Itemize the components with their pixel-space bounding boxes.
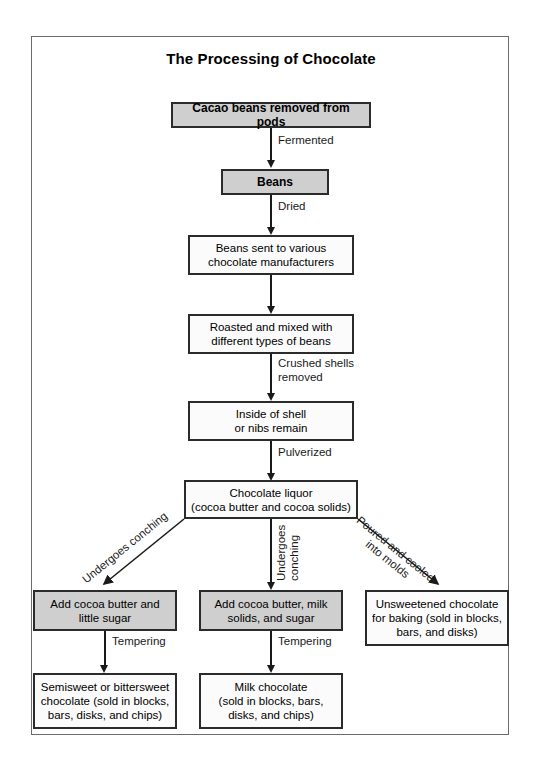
page-title: The Processing of Chocolate bbox=[32, 50, 510, 67]
edge-label-tempering-left: Tempering bbox=[112, 635, 166, 649]
node-chocolate-liquor: Chocolate liquor (cocoa butter and cocoa… bbox=[184, 480, 358, 519]
diagram-frame: The Processing of Chocolate Cacao beans … bbox=[31, 36, 509, 735]
node-semisweet-chocolate-label: Semisweet or bittersweet chocolate (sold… bbox=[39, 680, 171, 722]
arrowhead-roasted-to-shell bbox=[267, 393, 275, 401]
edge-label-dried: Dried bbox=[278, 200, 305, 214]
connector-liquor-to-milk-mix bbox=[270, 519, 272, 584]
edge-label-fermented: Fermented bbox=[278, 134, 334, 148]
node-semisweet-chocolate: Semisweet or bittersweet chocolate (sold… bbox=[33, 673, 177, 729]
node-manufacturers: Beans sent to various chocolate manufact… bbox=[188, 235, 354, 275]
node-manufacturers-label: Beans sent to various chocolate manufact… bbox=[194, 241, 348, 269]
node-inside-shell: Inside of shell or nibs remain bbox=[188, 401, 354, 441]
connector-shell-to-liquor bbox=[270, 441, 272, 475]
node-roasted: Roasted and mixed with different types o… bbox=[188, 314, 354, 354]
diagram-page: The Processing of Chocolate Cacao beans … bbox=[0, 0, 538, 768]
arrowhead-liquor-to-milk-mix bbox=[267, 582, 275, 590]
arrowhead-mid-tempering bbox=[267, 665, 275, 673]
node-cacao-beans: Cacao beans removed from pods bbox=[171, 102, 371, 128]
connector-left-tempering bbox=[104, 631, 106, 667]
edge-label-poured-cooled: Poured and cooled into molds bbox=[346, 514, 437, 595]
arrowhead-cacao-to-beans bbox=[267, 160, 275, 168]
node-cacao-beans-label: Cacao beans removed from pods bbox=[177, 101, 365, 129]
node-inside-shell-label: Inside of shell or nibs remain bbox=[194, 407, 348, 435]
node-add-cocoa-little-sugar: Add cocoa butter and little sugar bbox=[33, 590, 177, 631]
edge-label-tempering-mid: Tempering bbox=[278, 635, 332, 649]
connector-mid-tempering bbox=[270, 631, 272, 667]
connector-roasted-to-shell bbox=[270, 354, 272, 395]
edge-label-undergoes-conching-mid: Undergoes conching bbox=[275, 525, 301, 581]
edge-label-crushed-shells: Crushed shells removed bbox=[278, 357, 354, 384]
node-add-cocoa-milk-sugar: Add cocoa butter, milk solids, and sugar bbox=[199, 590, 343, 631]
connector-manufacturers-to-roasted bbox=[270, 275, 272, 308]
node-chocolate-liquor-label: Chocolate liquor (cocoa butter and cocoa… bbox=[190, 486, 352, 514]
node-milk-chocolate: Milk chocolate (sold in blocks, bars, di… bbox=[199, 673, 343, 729]
node-beans: Beans bbox=[221, 169, 329, 195]
edge-label-undergoes-conching-left: Undergoes conching bbox=[80, 510, 170, 586]
arrowhead-left-tempering bbox=[100, 665, 108, 673]
node-beans-label: Beans bbox=[227, 175, 323, 189]
connector-beans-to-manufacturers bbox=[270, 195, 272, 229]
node-milk-chocolate-label: Milk chocolate (sold in blocks, bars, di… bbox=[205, 680, 337, 722]
node-unsweetened-chocolate: Unsweetened chocolate for baking (sold i… bbox=[365, 590, 509, 646]
connector-cacao-to-beans bbox=[270, 128, 272, 162]
edge-label-pulverized: Pulverized bbox=[278, 446, 332, 460]
node-add-cocoa-little-sugar-label: Add cocoa butter and little sugar bbox=[39, 597, 171, 625]
node-unsweetened-chocolate-label: Unsweetened chocolate for baking (sold i… bbox=[371, 597, 503, 639]
node-roasted-label: Roasted and mixed with different types o… bbox=[194, 320, 348, 348]
arrowhead-beans-to-manufacturers bbox=[267, 227, 275, 235]
node-add-cocoa-milk-sugar-label: Add cocoa butter, milk solids, and sugar bbox=[205, 597, 337, 625]
arrowhead-manufacturers-to-roasted bbox=[267, 306, 275, 314]
